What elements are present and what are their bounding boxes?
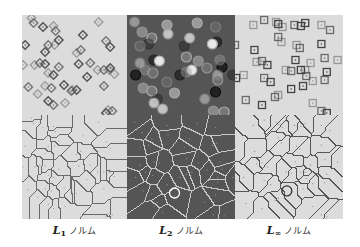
center-dot: [51, 87, 53, 89]
center-dot: [290, 88, 292, 90]
seed-point: [34, 166, 35, 167]
center-dot: [103, 85, 105, 87]
caption-l1-norm: L1ノルム: [22, 224, 127, 240]
circle-marker: [135, 58, 145, 68]
seed-point: [295, 161, 296, 162]
circle-marker: [211, 22, 221, 32]
voronoi-boundaries: [22, 115, 127, 219]
center-dot: [337, 59, 339, 61]
circle-marker: [207, 39, 217, 49]
seed-point: [135, 177, 136, 178]
seed-point: [278, 137, 279, 138]
circle-marker: [202, 63, 212, 73]
center-dot: [256, 61, 258, 63]
seed-point: [243, 177, 244, 178]
seed-point: [312, 183, 313, 184]
seed-point: [48, 204, 49, 205]
seed-point: [22, 166, 23, 167]
seed-point: [152, 175, 153, 176]
center-dot: [58, 66, 60, 68]
seed-point: [134, 122, 135, 123]
seed-point: [157, 202, 158, 203]
seed-point: [219, 161, 220, 162]
seed-point: [103, 172, 104, 173]
center-dot: [245, 99, 247, 101]
seed-point: [110, 148, 111, 149]
seed-point: [253, 125, 254, 126]
seed-point: [143, 190, 144, 191]
center-dot: [109, 46, 111, 48]
seed-point: [55, 131, 56, 132]
center-dot: [24, 44, 26, 46]
norm-symbol: L: [159, 224, 167, 237]
seed-point: [153, 206, 154, 207]
center-dot: [285, 69, 287, 71]
circle-marker: [181, 52, 191, 62]
seed-point: [42, 127, 43, 128]
seed-point: [53, 126, 54, 127]
panel-l1-voronoi: [22, 115, 127, 219]
center-dot: [290, 70, 292, 72]
seed-point: [37, 197, 38, 198]
seed-point: [217, 182, 218, 183]
center-dot: [55, 30, 57, 32]
center-dot: [253, 24, 255, 26]
seed-point: [275, 122, 276, 123]
center-dot: [76, 52, 78, 54]
center-dot: [277, 36, 279, 38]
seed-point: [98, 122, 99, 123]
seed-point: [145, 172, 146, 173]
seed-point: [39, 164, 40, 165]
seed-point: [300, 172, 301, 173]
center-dot: [243, 74, 245, 76]
seed-point: [245, 203, 246, 204]
seed-point: [108, 213, 109, 214]
seed-point: [215, 194, 216, 195]
circle-marker: [149, 98, 159, 108]
seed-point: [189, 138, 190, 139]
seed-point: [321, 125, 322, 126]
seed-point: [142, 132, 143, 133]
circle-marker: [193, 56, 203, 66]
center-dot: [282, 26, 284, 28]
circle-marker: [170, 88, 180, 98]
seed-point: [53, 177, 54, 178]
center-dot: [37, 93, 39, 95]
seed-point: [282, 127, 283, 128]
panel-linf: [235, 15, 343, 115]
circle-marker: [131, 70, 141, 80]
seed-point: [31, 118, 32, 119]
center-dot: [274, 96, 276, 98]
norm-label: ノルム: [176, 226, 203, 236]
seed-point: [45, 165, 46, 166]
seed-point: [80, 151, 81, 152]
seed-point: [45, 153, 46, 154]
seed-point: [148, 145, 149, 146]
seed-point: [97, 172, 98, 173]
seed-point: [278, 124, 279, 125]
center-dot: [28, 86, 30, 88]
seed-point: [25, 146, 26, 147]
seed-point: [281, 142, 282, 143]
center-dot: [326, 112, 328, 114]
center-dot: [44, 85, 46, 87]
center-dot: [324, 79, 326, 81]
seed-point: [48, 175, 49, 176]
seed-point: [312, 206, 313, 207]
center-dot: [64, 102, 66, 104]
seed-point: [213, 214, 214, 215]
center-dot: [263, 77, 265, 79]
seed-point: [198, 162, 199, 163]
seed-point: [82, 135, 83, 136]
seed-point: [105, 141, 106, 142]
center-dot: [267, 64, 269, 66]
center-dot: [294, 24, 296, 26]
seed-point: [278, 198, 279, 199]
circle-marker: [208, 106, 218, 115]
seed-point: [294, 125, 295, 126]
seed-point: [254, 151, 255, 152]
circle-marker: [135, 41, 145, 51]
seed-point: [261, 208, 262, 209]
center-dot: [329, 29, 331, 31]
seed-point: [212, 145, 213, 146]
